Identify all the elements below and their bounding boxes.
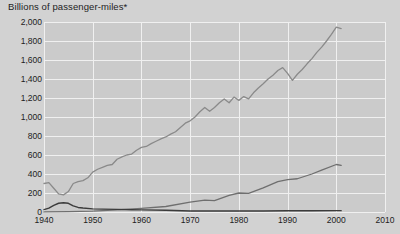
y-axis-tick-label: 800 — [28, 131, 42, 141]
y-axis-tick-label: 1,800 — [21, 36, 42, 46]
x-axis-tick-label: 2010 — [376, 215, 395, 225]
chart-figure: Billions of passenger-miles* 02004006008… — [0, 0, 400, 234]
y-axis-tick-label: 600 — [28, 150, 42, 160]
plot-area — [44, 22, 385, 212]
x-axis-tick-label: 1970 — [181, 215, 200, 225]
y-axis-tick-label: 400 — [28, 169, 42, 179]
x-axis-tick-label: 2000 — [327, 215, 346, 225]
y-axis-tick-label: 1,200 — [21, 93, 42, 103]
series-line-rail — [44, 203, 341, 211]
chart-axis-title: Billions of passenger-miles* — [8, 1, 127, 12]
series-line-air — [44, 165, 341, 212]
x-axis-tick-label: 1990 — [278, 215, 297, 225]
grid-line-vertical — [385, 22, 386, 212]
y-axis-tick-label: 2,000 — [21, 17, 42, 27]
grid-line-horizontal — [44, 212, 385, 213]
y-axis-tick-label: 1,400 — [21, 74, 42, 84]
x-axis-tick-label: 1980 — [229, 215, 248, 225]
series-layer — [44, 22, 385, 212]
x-axis-tick-label: 1960 — [132, 215, 151, 225]
x-axis-tick-label: 1940 — [35, 215, 54, 225]
y-axis-tick-label: 200 — [28, 188, 42, 198]
x-axis-tick-label: 1950 — [83, 215, 102, 225]
y-axis-tick-label: 1,600 — [21, 55, 42, 65]
series-line-automobile — [44, 27, 341, 195]
y-axis-tick-label: 1,000 — [21, 112, 42, 122]
